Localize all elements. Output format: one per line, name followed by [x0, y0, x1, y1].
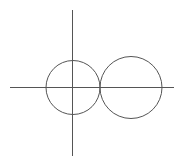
tangent-circles-diagram [0, 0, 195, 165]
